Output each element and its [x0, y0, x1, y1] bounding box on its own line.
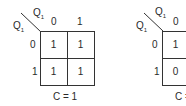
kmap-cell: 1: [67, 58, 94, 85]
column-variable-label: Q1: [155, 7, 166, 21]
kmap-cell: 0: [162, 58, 186, 85]
row-variable-label: Q1: [13, 21, 24, 35]
kmap-cell: 1: [67, 31, 94, 58]
row-header-1: 1: [154, 67, 160, 77]
kmap-right: Q1 Q1 0 1 0 1 1 0 C = 0: [123, 0, 186, 106]
column-header-0: 0: [51, 17, 57, 27]
kmap-left: Q1 Q1 0 1 0 1 1 1 1 1 C = 1: [0, 0, 100, 106]
column-variable-label: Q1: [33, 8, 44, 22]
kmap-cell: 1: [40, 31, 67, 58]
row-header-0: 0: [30, 40, 36, 50]
column-header-0: 0: [173, 17, 179, 27]
kmap-cell: 1: [40, 58, 67, 85]
row-variable-label: Q1: [136, 21, 147, 35]
kmap-cell: 1: [162, 31, 186, 58]
row-header-1: 1: [32, 67, 38, 77]
row-header-0: 0: [152, 40, 158, 50]
kmap-caption: C = 0: [175, 91, 186, 102]
kmap-caption: C = 1: [53, 91, 77, 102]
column-header-1: 1: [77, 17, 83, 27]
